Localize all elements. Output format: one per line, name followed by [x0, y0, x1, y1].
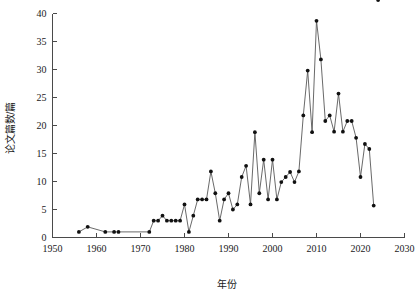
data-point-marker	[323, 119, 327, 123]
data-point-marker	[367, 147, 371, 151]
y-axis-tick-label: 35	[37, 36, 47, 47]
chart-plot-area: 195019601970198019902000201020202030 051…	[0, 0, 420, 295]
y-axis-tick-label: 20	[37, 120, 47, 131]
x-axis-tick-label: 2030	[395, 243, 415, 254]
data-point-marker	[244, 164, 248, 168]
data-point-marker	[337, 92, 341, 96]
y-axis-tick-label: 40	[37, 8, 47, 19]
x-axis-tick-label: 1950	[43, 243, 63, 254]
data-point-marker	[315, 19, 319, 23]
data-point-marker	[77, 230, 81, 234]
data-point-marker	[112, 230, 116, 234]
data-point-marker	[213, 191, 217, 195]
data-series-papers	[77, 0, 380, 234]
data-point-marker	[253, 130, 257, 134]
data-point-marker	[249, 203, 253, 207]
data-point-marker	[345, 119, 349, 123]
x-axis-tick-label: 1970	[131, 243, 151, 254]
data-point-marker	[165, 219, 169, 223]
data-point-marker	[156, 219, 160, 223]
data-point-marker	[284, 175, 288, 179]
y-axis-tick-label: 5	[42, 204, 47, 215]
series-polyline	[79, 21, 374, 232]
y-axis-tick-labels: 0510152025303540	[37, 8, 47, 243]
data-point-marker	[103, 230, 107, 234]
data-point-marker	[117, 230, 121, 234]
x-axis-tick-label: 2010	[307, 243, 327, 254]
data-point-marker	[86, 225, 90, 229]
data-point-marker	[257, 191, 261, 195]
data-point-marker	[218, 219, 222, 223]
data-point-marker	[372, 204, 376, 208]
y-axis-title: 论文篇数/篇	[4, 102, 16, 155]
data-point-marker	[222, 198, 226, 202]
data-point-marker	[262, 158, 266, 162]
y-axis-tick-label: 15	[37, 148, 47, 159]
data-point-marker	[174, 219, 178, 223]
data-point-marker	[231, 208, 235, 212]
data-point-marker	[332, 130, 336, 134]
data-point-marker	[266, 198, 270, 202]
data-point-marker	[187, 230, 191, 234]
data-point-marker	[205, 198, 209, 202]
chart-ticks	[53, 14, 405, 238]
data-point-marker	[359, 175, 363, 179]
data-point-marker	[178, 219, 182, 223]
x-axis-tick-label: 1980	[175, 243, 195, 254]
data-point-marker	[297, 170, 301, 174]
data-point-marker	[310, 130, 314, 134]
y-axis-tick-label: 30	[37, 64, 47, 75]
data-point-marker	[293, 180, 297, 184]
data-point-marker	[301, 114, 305, 118]
data-point-marker	[196, 198, 200, 202]
y-axis-tick-label: 25	[37, 92, 47, 103]
x-axis-tick-label: 1990	[219, 243, 239, 254]
data-point-marker	[363, 142, 367, 146]
x-axis-title: 年份	[217, 278, 237, 290]
x-axis-tick-label: 1960	[87, 243, 107, 254]
data-point-marker	[319, 58, 323, 62]
data-point-marker	[328, 114, 332, 118]
data-point-marker	[183, 203, 187, 207]
data-point-marker	[279, 180, 283, 184]
data-point-marker	[200, 198, 204, 202]
y-axis-tick-label: 0	[42, 232, 47, 243]
chart-axes	[53, 14, 405, 238]
data-point-marker	[191, 214, 195, 218]
data-point-marker	[288, 170, 292, 174]
x-axis-tick-labels: 195019601970198019902000201020202030	[43, 243, 415, 254]
data-point-marker	[147, 230, 151, 234]
data-point-marker	[354, 136, 358, 140]
line-chart-figure: 195019601970198019902000201020202030 051…	[0, 0, 420, 295]
x-axis-tick-label: 2020	[351, 243, 371, 254]
data-point-marker	[306, 69, 310, 73]
data-point-marker	[235, 203, 239, 207]
data-point-marker	[350, 119, 354, 123]
x-axis-tick-label: 2000	[263, 243, 283, 254]
data-point-marker	[161, 214, 165, 218]
data-point-marker	[240, 175, 244, 179]
data-point-marker	[271, 158, 275, 162]
y-axis-tick-label: 10	[37, 176, 47, 187]
data-point-marker	[376, 0, 380, 2]
data-point-marker	[275, 198, 279, 202]
data-point-marker	[341, 130, 345, 134]
data-point-marker	[209, 170, 213, 174]
data-point-marker	[227, 191, 231, 195]
data-point-marker	[169, 219, 173, 223]
data-point-marker	[152, 219, 156, 223]
